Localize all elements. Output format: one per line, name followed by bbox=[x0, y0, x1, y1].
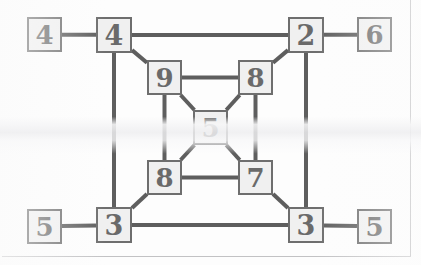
node-outer-top-right[interactable]: 2 bbox=[288, 17, 324, 53]
edge-outer-tl-to-inner-tl bbox=[132, 50, 147, 63]
node-label: 5 bbox=[35, 214, 53, 240]
node-label: 8 bbox=[155, 165, 173, 191]
node-label: 6 bbox=[365, 22, 383, 48]
edge-inner-bl-to-center bbox=[181, 145, 195, 160]
node-inner-top-right[interactable]: 8 bbox=[238, 60, 273, 95]
node-leaf-bottom-left[interactable]: 5 bbox=[27, 209, 62, 244]
node-label: 2 bbox=[297, 22, 316, 49]
node-inner-bottom-left[interactable]: 8 bbox=[147, 160, 182, 195]
node-label: 8 bbox=[246, 65, 264, 91]
node-label: 5 bbox=[201, 115, 219, 141]
edge-outer-tr-to-inner-tr bbox=[273, 50, 288, 63]
edge-inner-tr-to-center bbox=[226, 95, 240, 110]
node-label: 4 bbox=[105, 22, 124, 49]
edge-outer-br-to-inner-br bbox=[273, 194, 288, 208]
node-inner-bottom-right[interactable]: 7 bbox=[238, 160, 273, 195]
edge-inner-tl-to-center bbox=[181, 95, 195, 110]
node-inner-top-left[interactable]: 9 bbox=[147, 60, 182, 95]
node-leaf-bottom-right[interactable]: 5 bbox=[357, 209, 392, 244]
node-center-node[interactable]: 5 bbox=[193, 110, 228, 145]
page-frame-bottom-edge bbox=[2, 256, 411, 257]
edge-leaf-bl-to-outer-bl bbox=[62, 225, 96, 226]
edge-outer-br-to-leaf-br bbox=[324, 225, 357, 226]
node-outer-top-left[interactable]: 4 bbox=[96, 17, 132, 53]
edge-outer-bl-to-inner-bl bbox=[132, 194, 147, 208]
edge-inner-br-to-center bbox=[226, 145, 240, 160]
page-frame-right-edge bbox=[410, 0, 411, 257]
node-label: 3 bbox=[105, 212, 124, 239]
node-leaf-top-left[interactable]: 4 bbox=[27, 17, 62, 52]
node-label: 7 bbox=[246, 165, 264, 191]
node-label: 9 bbox=[155, 65, 173, 91]
node-outer-bottom-left[interactable]: 3 bbox=[96, 207, 132, 243]
scanned-diagram-canvas: 4426985875335 bbox=[0, 0, 421, 265]
node-outer-bottom-right[interactable]: 3 bbox=[288, 207, 324, 243]
node-label: 4 bbox=[35, 22, 53, 48]
node-label: 5 bbox=[365, 214, 383, 240]
node-leaf-top-right[interactable]: 6 bbox=[357, 17, 392, 52]
node-label: 3 bbox=[297, 212, 316, 239]
